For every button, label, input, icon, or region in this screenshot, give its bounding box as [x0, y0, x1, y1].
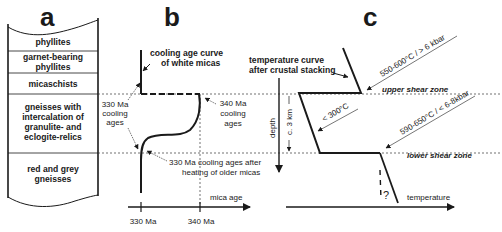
cooling-age-curve [141, 94, 200, 193]
label-330-cooling-left: 330 Macoolingages [102, 100, 129, 127]
x-axis-label-c: temperature [407, 193, 451, 202]
middle-temp-label: < 300°C [321, 101, 351, 124]
panel-a-letter: a [40, 2, 55, 32]
thickness-label: c. 3 km [285, 109, 294, 135]
uncertain-dashed-line [380, 170, 381, 200]
tick-label-330: 330 Ma [130, 217, 157, 226]
pointer-after-heating [147, 151, 167, 161]
layer-micaschists: micaschists [28, 79, 77, 89]
layer-phyllites: phyllites [36, 37, 71, 47]
upper-pt-leader [367, 36, 457, 90]
geology-figure: a phyllites garnet-bearingphyllites mica… [0, 0, 502, 232]
label-330-after-heating: 330 Ma cooling ages afterheating of olde… [169, 158, 261, 177]
panel-b-letter: b [164, 2, 180, 32]
curve-title-c: temperature curveafter crustal stacking [249, 55, 335, 75]
panel-c-letter: c [363, 2, 377, 32]
title-c-pointer-arrow [333, 73, 348, 77]
column-bottom-wavy-edge [8, 195, 98, 207]
panel-a: a phyllites garnet-bearingphyllites mica… [8, 2, 98, 207]
panel-b: b cooling age curveof white micas 330 Ma… [102, 2, 262, 226]
layer-garnet-phyllites: garnet-bearingphyllites [23, 52, 83, 72]
pointer-lower [128, 128, 138, 149]
upper-pt-label: 550-600°C / > 6 kbar [378, 33, 446, 79]
pointer-340 [205, 98, 216, 104]
label-340-cooling: 340 Macoolingages [220, 99, 247, 128]
pointer-upper [128, 83, 140, 100]
layer-gneisses-intercalation: gneisses withintercalation ofgranulite- … [22, 102, 84, 142]
title-pointer-arrow [143, 64, 150, 71]
curve-title-b: cooling age curveof white micas [150, 48, 223, 68]
lower-shear-zone-label: lower shear zone [407, 151, 472, 160]
tick-label-340: 340 Ma [188, 217, 215, 226]
upper-shear-zone-label: upper shear zone [382, 85, 449, 94]
question-mark: ? [383, 189, 389, 201]
x-axis-label-b: mica age [210, 193, 243, 202]
layer-red-grey-gneisses: red and greygneisses [27, 164, 79, 184]
depth-label: depth [268, 118, 277, 138]
lower-pt-label: 590-650°C / < 6-8kbar [398, 88, 471, 137]
panel-c: c depth c. 3 km ? temperature curveafter… [249, 2, 475, 207]
lower-pt-leader [386, 96, 475, 148]
